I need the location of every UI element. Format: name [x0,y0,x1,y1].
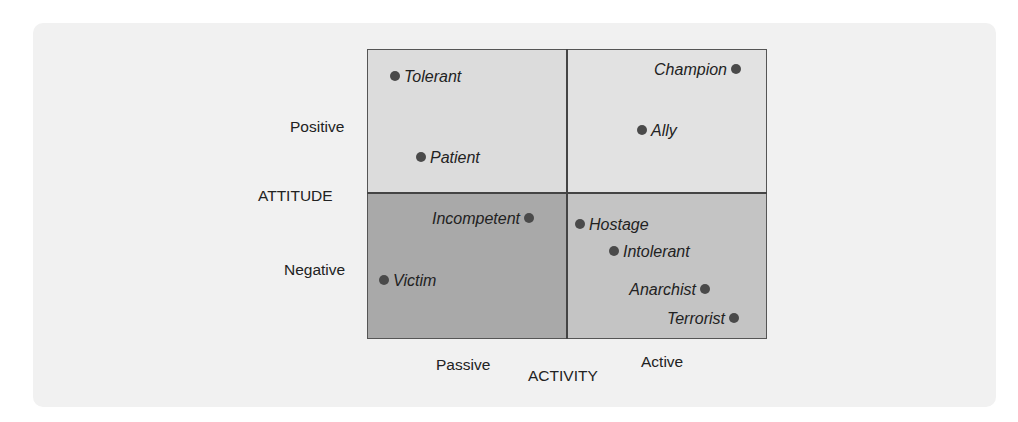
point-label-incompetent: Incompetent [432,211,520,227]
vertical-divider [566,49,568,339]
y-tick-positive: Positive [290,119,344,135]
point-label-anarchist: Anarchist [629,282,696,298]
horizontal-divider [367,192,767,194]
y-axis-title: ATTITUDE [258,188,333,204]
point-marker [731,64,741,74]
x-tick-active: Active [641,354,683,370]
point-marker [390,71,400,81]
point-label-patient: Patient [430,150,480,166]
point-label-ally: Ally [651,123,677,139]
point-marker [700,284,710,294]
y-tick-negative: Negative [284,262,345,278]
point-marker [609,246,619,256]
x-axis-title: ACTIVITY [528,368,598,384]
point-marker [729,313,739,323]
point-marker [637,125,647,135]
point-label-hostage: Hostage [589,217,649,233]
point-marker [379,275,389,285]
point-label-victim: Victim [393,273,436,289]
point-label-tolerant: Tolerant [404,69,461,85]
point-marker [416,152,426,162]
x-tick-passive: Passive [436,357,490,373]
point-label-intolerant: Intolerant [623,244,690,260]
point-label-terrorist: Terrorist [667,311,725,327]
point-label-champion: Champion [654,62,727,78]
point-marker [524,213,534,223]
point-marker [575,219,585,229]
